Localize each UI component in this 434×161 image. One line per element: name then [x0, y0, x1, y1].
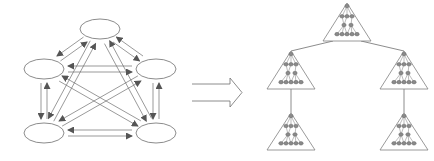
diagram-canvas: [0, 0, 434, 161]
inner-tree-node: [289, 124, 293, 128]
inner-tree-node: [406, 71, 410, 75]
inner-tree-node: [350, 14, 354, 18]
inner-tree-node: [286, 71, 290, 75]
inner-tree-node: [289, 63, 293, 67]
inner-tree-node: [294, 124, 298, 128]
inner-tree-node: [402, 124, 406, 128]
node-top: [80, 19, 120, 39]
subtree-left: [267, 51, 315, 89]
inner-tree-node: [279, 142, 283, 146]
edge-arrow-bottom-right-to-mid-left: [62, 76, 141, 121]
inner-tree-node: [345, 32, 349, 36]
inner-tree-node: [289, 52, 293, 56]
inner-tree-node: [397, 63, 401, 67]
inner-tree-node: [289, 80, 293, 84]
inner-tree-node: [397, 124, 401, 128]
inner-tree-node: [407, 142, 411, 146]
inner-tree-node: [335, 32, 339, 36]
inner-tree-node: [345, 4, 349, 8]
tree-link-root-to-left: [291, 41, 333, 51]
inner-tree-node: [392, 142, 396, 146]
tree-link-root-to-right: [361, 41, 404, 51]
inner-tree-node: [397, 142, 401, 146]
transform-arrow-icon: [192, 78, 242, 107]
inner-tree-node: [402, 80, 406, 84]
inner-tree-node: [284, 80, 288, 84]
inner-tree-node: [299, 80, 303, 84]
inner-tree-node: [402, 52, 406, 56]
inner-tree-node: [402, 63, 406, 67]
node-mid-right: [136, 59, 176, 79]
inner-tree-node: [293, 133, 297, 137]
inner-tree-node: [407, 80, 411, 84]
node-mid-left: [24, 59, 64, 79]
inner-tree-node: [412, 80, 416, 84]
subtree-left-child: [267, 113, 315, 150]
inner-tree-node: [392, 80, 396, 84]
inner-tree-node: [284, 124, 288, 128]
inner-tree-node: [299, 142, 303, 146]
inner-tree-node: [286, 133, 290, 137]
network-to-tree-diagram: [0, 0, 434, 161]
inner-tree-node: [355, 32, 359, 36]
subtree-root: [323, 3, 371, 41]
edge-arrow-mid-left-to-top: [60, 42, 87, 61]
inner-tree-node: [293, 71, 297, 75]
inner-tree-node: [407, 124, 411, 128]
inner-tree-node: [402, 142, 406, 146]
edge-arrow-mid-right-to-bottom-left: [59, 76, 138, 121]
inner-tree-node: [340, 14, 344, 18]
inner-tree-node: [345, 14, 349, 18]
inner-tree-node: [340, 32, 344, 36]
node-bottom-right: [136, 123, 176, 143]
inner-tree-node: [397, 80, 401, 84]
node-bottom-left: [24, 123, 64, 143]
edge-arrow-mid-right-to-top: [116, 37, 143, 56]
inner-tree-node: [289, 114, 293, 118]
inner-tree-node: [399, 133, 403, 137]
subtree-right-child: [380, 113, 428, 150]
edge-arrow-top-to-mid-right: [113, 42, 140, 61]
inner-tree-node: [284, 142, 288, 146]
inner-tree-node: [406, 133, 410, 137]
edge-arrow-bottom-left-to-mid-right: [62, 81, 141, 126]
edge-arrow-mid-left-to-bottom-right: [59, 81, 138, 126]
edge-arrow-top-to-mid-left: [57, 37, 84, 56]
inner-tree-node: [289, 142, 293, 146]
inner-tree-node: [349, 23, 353, 27]
arrow-head: [230, 78, 242, 107]
edge-arrow-bottom-left-to-top: [54, 44, 96, 122]
inner-tree-node: [294, 142, 298, 146]
fully-connected-network: [24, 19, 176, 143]
inner-tree-node: [294, 80, 298, 84]
subtree-right: [380, 51, 428, 89]
edge-arrow-top-to-bottom-right: [104, 44, 146, 122]
hierarchical-tree: [267, 3, 428, 150]
inner-tree-node: [407, 63, 411, 67]
inner-tree-node: [350, 32, 354, 36]
inner-tree-node: [279, 80, 283, 84]
inner-tree-node: [284, 63, 288, 67]
inner-tree-node: [294, 63, 298, 67]
inner-tree-node: [402, 114, 406, 118]
inner-tree-node: [399, 71, 403, 75]
inner-tree-node: [342, 23, 346, 27]
inner-tree-node: [412, 142, 416, 146]
